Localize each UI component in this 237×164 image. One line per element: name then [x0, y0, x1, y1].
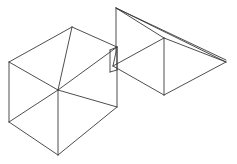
figure-canvas	[0, 0, 237, 164]
wireframe-drawing	[0, 0, 237, 164]
